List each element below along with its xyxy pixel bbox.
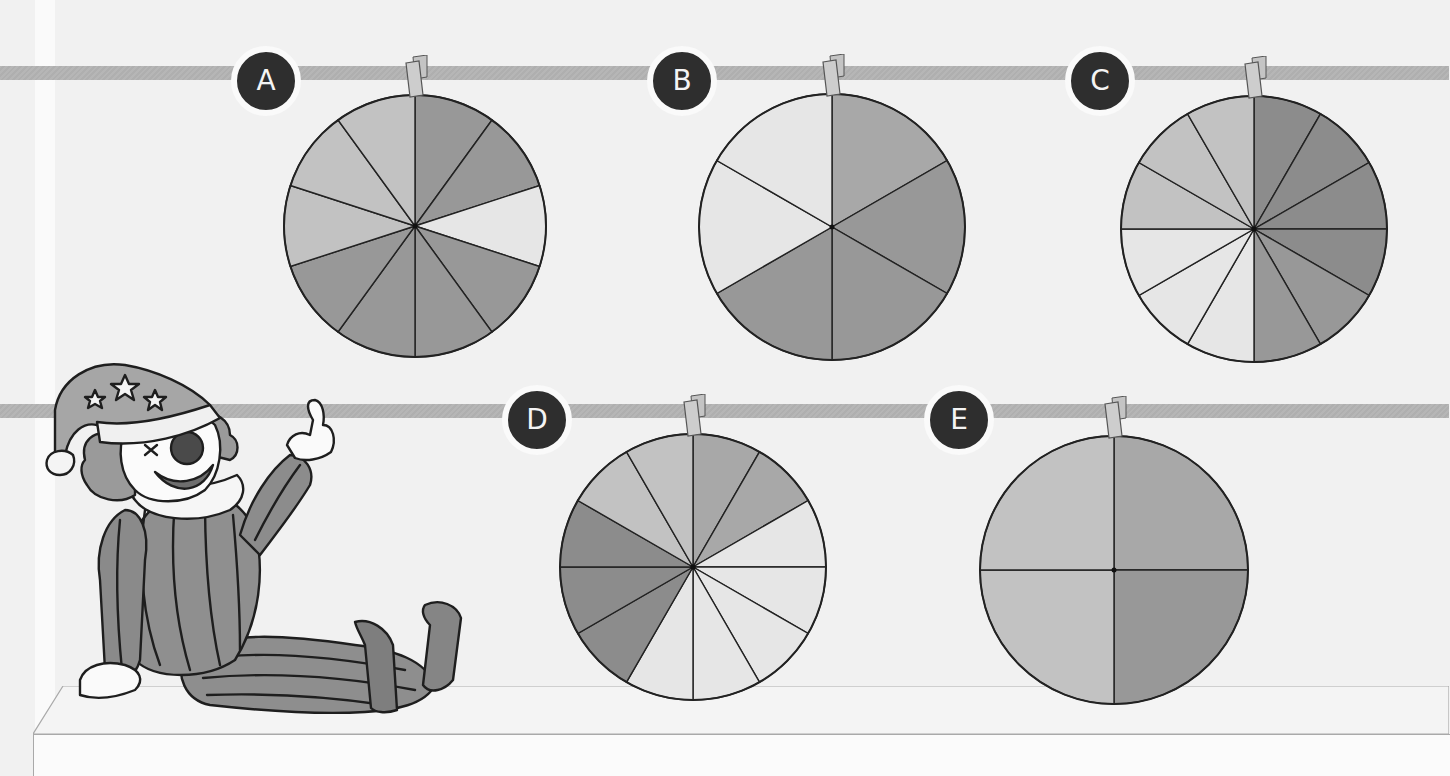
clip-icon	[1102, 396, 1132, 446]
clip-icon	[681, 394, 711, 444]
clip-icon	[1242, 56, 1272, 106]
label-badge-e: E	[924, 385, 994, 455]
spinner-hub	[691, 565, 696, 570]
clip-icon	[820, 54, 850, 104]
spinner-sector	[980, 570, 1114, 704]
spinner-c	[1117, 92, 1391, 366]
spinner-hub	[1252, 227, 1257, 232]
top-rail	[0, 66, 1449, 80]
spinner-sector	[980, 436, 1114, 570]
label-badge-d: D	[502, 385, 572, 455]
label-badge-b: B	[647, 46, 717, 116]
spinner-e	[976, 432, 1252, 708]
clown-illustration	[25, 360, 485, 760]
spinner-b	[695, 90, 969, 364]
spinner-sector	[1114, 570, 1248, 704]
spinner-sector	[1114, 436, 1248, 570]
spinner-hub	[413, 224, 418, 229]
spinner-a	[280, 91, 550, 361]
label-badge-a: A	[231, 46, 301, 116]
spinner-hub	[830, 225, 835, 230]
spinner-d	[556, 430, 830, 704]
clip-icon	[403, 55, 433, 105]
spinner-hub	[1112, 568, 1117, 573]
label-badge-c: C	[1065, 46, 1135, 116]
